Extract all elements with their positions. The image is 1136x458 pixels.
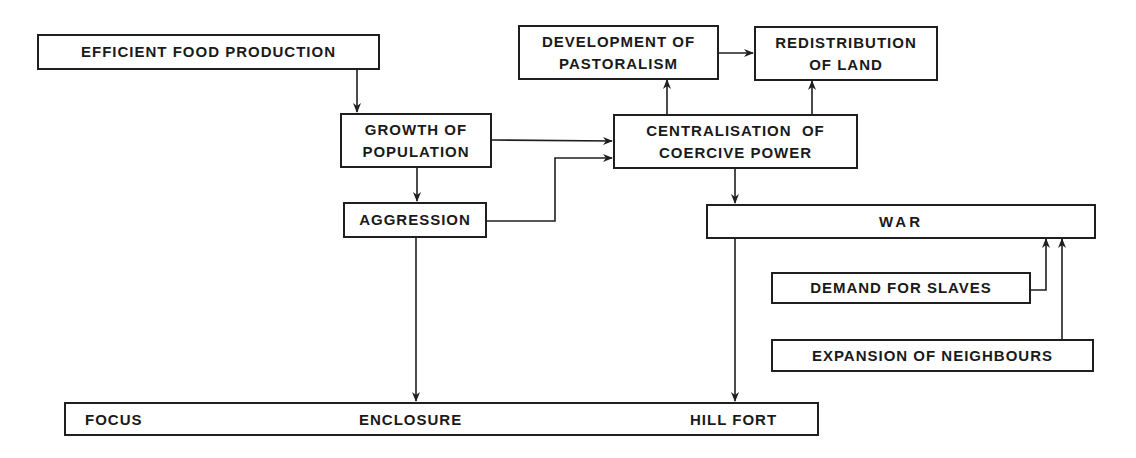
- node-centralisation-of-coercive-power: CENTRALISATION OF COERCIVE POWER: [613, 114, 858, 169]
- node-label: EXPANSION OF NEIGHBOURS: [812, 345, 1053, 367]
- node-label-line2: POPULATION: [362, 141, 469, 163]
- node-label-line1: DEVELOPMENT OF: [542, 31, 695, 53]
- node-label-line1: CENTRALISATION OF: [646, 120, 825, 142]
- node-expansion-of-neighbours: EXPANSION OF NEIGHBOURS: [771, 339, 1094, 372]
- node-label-line2: PASTORALISM: [559, 53, 678, 75]
- node-label: AGGRESSION: [359, 209, 471, 231]
- arrow-slaves-to-war: [1030, 239, 1046, 290]
- node-efficient-food-production: EFFICIENT FOOD PRODUCTION: [37, 34, 380, 70]
- bar-label-hill-fort: HILL FORT: [690, 411, 777, 428]
- bar-label-enclosure: ENCLOSURE: [359, 411, 462, 428]
- node-growth-of-population: GROWTH OF POPULATION: [340, 113, 492, 168]
- node-war: WAR: [706, 204, 1096, 239]
- node-redistribution-of-land: REDISTRIBUTION OF LAND: [754, 26, 938, 81]
- node-demand-for-slaves: DEMAND FOR SLAVES: [771, 272, 1031, 304]
- node-label-line2: OF LAND: [809, 54, 883, 76]
- node-label-line1: GROWTH OF: [365, 119, 467, 141]
- bar-label-focus: FOCUS: [85, 411, 143, 428]
- node-development-of-pastoralism: DEVELOPMENT OF PASTORALISM: [518, 25, 719, 80]
- node-aggression: AGGRESSION: [343, 202, 487, 238]
- node-label-line2: COERCIVE POWER: [659, 142, 812, 164]
- settlement-type-bar: FOCUS ENCLOSURE HILL FORT: [64, 402, 819, 436]
- node-label: EFFICIENT FOOD PRODUCTION: [81, 41, 336, 63]
- node-label-line1: REDISTRIBUTION: [775, 32, 917, 54]
- node-label: WAR: [879, 211, 923, 233]
- arrow-aggression-to-centralisation: [486, 158, 612, 221]
- node-label: DEMAND FOR SLAVES: [810, 277, 992, 299]
- arrow-growth-to-centralisation: [491, 140, 612, 141]
